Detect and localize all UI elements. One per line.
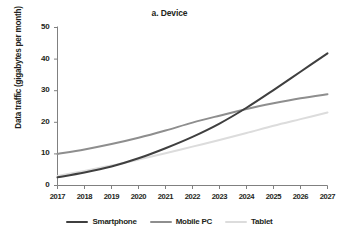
y-axis-tick-label: 10 xyxy=(30,148,50,157)
chart-legend: SmartphoneMobile PCTablet xyxy=(0,217,339,226)
legend-item-smartphone[interactable]: Smartphone xyxy=(66,217,136,226)
legend-item-tablet[interactable]: Tablet xyxy=(225,217,272,226)
legend-item-mobile-pc[interactable]: Mobile PC xyxy=(150,217,212,226)
legend-label: Smartphone xyxy=(92,217,136,226)
y-axis-tick-label: 0 xyxy=(30,180,50,189)
chart-figure: a. Device Data traffic (gigabytes per mo… xyxy=(0,0,339,240)
series-line-smartphone xyxy=(58,53,328,177)
series-line-mobile-pc xyxy=(58,94,328,154)
y-axis-tick-label: 50 xyxy=(30,22,50,31)
plot-area xyxy=(0,0,339,240)
y-axis-tick-label: 20 xyxy=(30,117,50,126)
y-axis-tick-label: 30 xyxy=(30,85,50,94)
legend-swatch-icon xyxy=(66,221,88,223)
x-axis-tick-label: 2027 xyxy=(311,192,339,201)
legend-swatch-icon xyxy=(150,221,172,223)
legend-swatch-icon xyxy=(225,221,247,223)
y-axis-tick-label: 40 xyxy=(30,54,50,63)
legend-label: Tablet xyxy=(251,217,272,226)
legend-label: Mobile PC xyxy=(176,217,212,226)
